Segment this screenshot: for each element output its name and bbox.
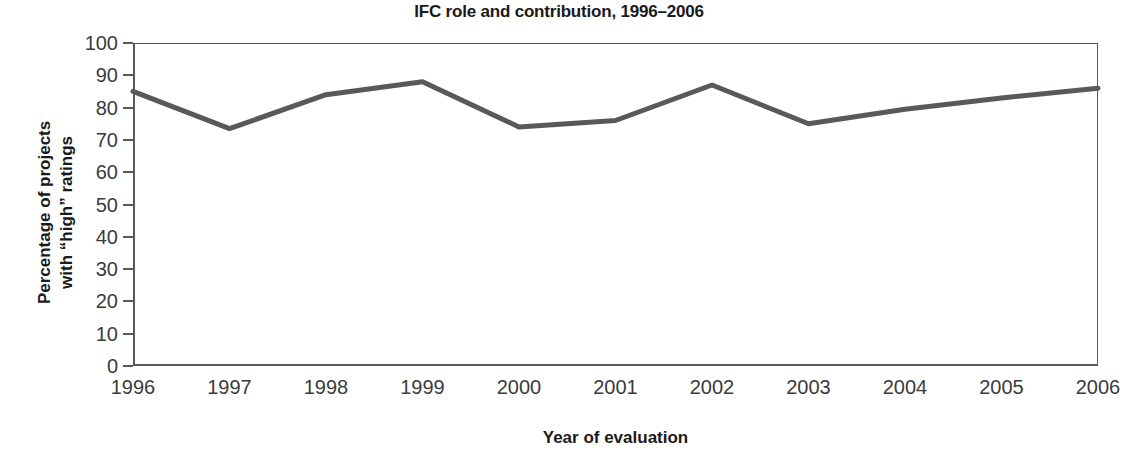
y-tick-mark-30 bbox=[123, 268, 133, 270]
y-tick-mark-10 bbox=[123, 333, 133, 335]
x-tick-label-1997: 1997 bbox=[185, 376, 275, 399]
y-tick-label-50: 50 bbox=[60, 193, 118, 216]
y-tick-mark-0 bbox=[123, 365, 133, 367]
x-tick-label-2004: 2004 bbox=[860, 376, 950, 399]
y-tick-label-100: 100 bbox=[60, 32, 118, 55]
y-tick-mark-100 bbox=[123, 42, 133, 44]
y-tick-label-70: 70 bbox=[60, 128, 118, 151]
y-tick-mark-80 bbox=[123, 107, 133, 109]
x-tick-label-2003: 2003 bbox=[764, 376, 854, 399]
y-tick-label-90: 90 bbox=[60, 64, 118, 87]
y-tick-label-60: 60 bbox=[60, 161, 118, 184]
y-tick-label-30: 30 bbox=[60, 258, 118, 281]
y-tick-label-10: 10 bbox=[60, 322, 118, 345]
x-tick-label-2005: 2005 bbox=[957, 376, 1047, 399]
x-tick-label-1996: 1996 bbox=[88, 376, 178, 399]
y-tick-mark-20 bbox=[123, 300, 133, 302]
y-tick-label-80: 80 bbox=[60, 96, 118, 119]
x-tick-label-2002: 2002 bbox=[667, 376, 757, 399]
y-tick-label-0: 0 bbox=[60, 355, 118, 378]
y-tick-mark-60 bbox=[123, 171, 133, 173]
y-tick-mark-50 bbox=[123, 204, 133, 206]
y-tick-label-20: 20 bbox=[60, 290, 118, 313]
y-tick-mark-70 bbox=[123, 139, 133, 141]
data-series-line bbox=[133, 43, 1098, 366]
x-axis-title: Year of evaluation bbox=[133, 428, 1098, 448]
x-tick-label-2000: 2000 bbox=[474, 376, 564, 399]
chart-title: IFC role and contribution, 1996–2006 bbox=[0, 2, 1118, 22]
plot-area bbox=[133, 43, 1098, 366]
x-tick-label-2001: 2001 bbox=[571, 376, 661, 399]
x-tick-label-2006: 2006 bbox=[1053, 376, 1124, 399]
y-tick-mark-90 bbox=[123, 74, 133, 76]
y-tick-mark-40 bbox=[123, 236, 133, 238]
series-polyline bbox=[133, 82, 1098, 129]
x-tick-label-1999: 1999 bbox=[378, 376, 468, 399]
y-tick-label-40: 40 bbox=[60, 225, 118, 248]
x-tick-label-1998: 1998 bbox=[281, 376, 371, 399]
y-axis-title-line-1: Percentage of projects bbox=[34, 62, 56, 362]
